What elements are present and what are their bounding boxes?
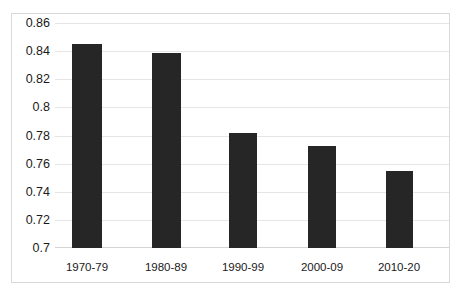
- y-tick-label: 0.8: [4, 101, 50, 114]
- bar-chart: 0.86 0.84 0.82 0.8 0.78 0.76 0.74 0.72 0…: [0, 0, 462, 296]
- bar[interactable]: [308, 146, 336, 248]
- gridline: [55, 51, 449, 52]
- y-tick-label: 0.82: [4, 73, 50, 86]
- gridline: [55, 23, 449, 24]
- bar[interactable]: [229, 133, 257, 248]
- gridline: [55, 79, 449, 80]
- bar[interactable]: [386, 171, 413, 248]
- x-tick-label: 2010-20: [378, 262, 420, 274]
- x-axis-tick-labels: 1970-79 1980-89 1990-99 2000-09 2010-20: [0, 262, 462, 278]
- x-tick-label: 1980-89: [145, 262, 187, 274]
- x-tick-label: 1970-79: [66, 262, 108, 274]
- y-tick-label: 0.76: [4, 158, 50, 171]
- y-tick-label: 0.72: [4, 214, 50, 227]
- bar[interactable]: [152, 53, 181, 248]
- y-axis-tick-labels: 0.86 0.84 0.82 0.8 0.78 0.76 0.74 0.72 0…: [0, 23, 50, 248]
- y-tick-label: 0.86: [4, 17, 50, 30]
- y-tick-label: 0.78: [4, 130, 50, 143]
- y-tick-label: 0.84: [4, 45, 50, 58]
- x-tick-label: 2000-09: [301, 262, 343, 274]
- y-tick-label: 0.74: [4, 186, 50, 199]
- bar[interactable]: [72, 44, 102, 248]
- gridline: [55, 107, 449, 108]
- x-tick-label: 1990-99: [222, 262, 264, 274]
- chart-plot-area: [55, 23, 449, 248]
- y-tick-label: 0.7: [4, 242, 50, 255]
